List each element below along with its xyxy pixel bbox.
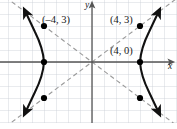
point-4-3 (137, 23, 143, 29)
point-label-4-0: (4, 0) (110, 46, 133, 57)
y-axis-label: y (85, 1, 89, 11)
x-axis-label: x (168, 62, 172, 72)
point-neg4-neg3 (41, 95, 47, 101)
bottom-margin (0, 123, 177, 129)
point-neg4-0 (41, 59, 47, 65)
point-4-0 (137, 59, 143, 65)
point-4-neg3 (137, 95, 143, 101)
point-label-neg4-3: (–4, 3) (42, 15, 70, 26)
plot-canvas (0, 0, 177, 129)
point-label-4-3: (4, 3) (110, 15, 133, 26)
hyperbola-figure: (–4, 3) (4, 3) (4, 0) y x (0, 0, 177, 129)
